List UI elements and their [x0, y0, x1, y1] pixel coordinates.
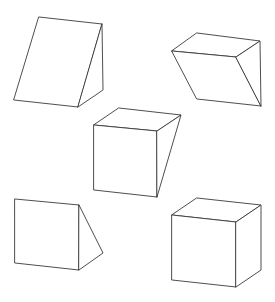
geometric-solids-figure [0, 0, 275, 302]
wedge-bottom-left [15, 199, 103, 270]
prism-middle [94, 108, 181, 197]
face-1 [79, 205, 103, 270]
face-1 [172, 215, 236, 287]
prism-top-right [172, 33, 261, 106]
cube-bottom-right [172, 198, 261, 287]
face-1 [94, 125, 157, 197]
face-0 [15, 199, 79, 270]
wedge-top-left [14, 17, 103, 107]
